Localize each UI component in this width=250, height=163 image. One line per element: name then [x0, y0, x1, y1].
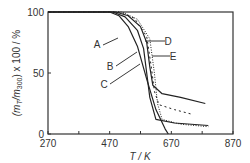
y-axis-label: (mT/m300) x 100 / %: [11, 30, 23, 117]
curve-E: [48, 12, 208, 127]
curve-B: [48, 12, 208, 126]
annotation-C: C: [100, 79, 107, 90]
y-tick-label: 50: [33, 68, 45, 79]
x-tick-label: 670: [163, 138, 180, 149]
annotation-D: D: [164, 36, 171, 47]
curve-annotations: ABCDE: [94, 36, 177, 90]
y-tick-label: 100: [27, 7, 44, 18]
plot-frame: [48, 12, 233, 134]
tga-chart: 270470670870 050100 ABCDE T / K (mT/m300…: [0, 0, 250, 163]
annotation-B: B: [107, 61, 114, 72]
x-axis-label: T / K: [129, 151, 151, 162]
curve-C: [48, 12, 205, 104]
annotation-A: A: [94, 39, 101, 50]
x-tick-label: 470: [101, 138, 118, 149]
x-tick-label: 870: [225, 138, 242, 149]
x-tick-label: 270: [40, 138, 57, 149]
annotation-E: E: [170, 51, 177, 62]
data-curves: [48, 12, 208, 134]
y-tick-label: 0: [38, 129, 44, 140]
